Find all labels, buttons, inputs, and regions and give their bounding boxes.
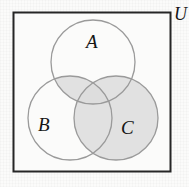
venn-diagram-figure: A B C U bbox=[0, 0, 189, 187]
set-label-b: B bbox=[38, 115, 50, 134]
set-label-c: C bbox=[121, 118, 134, 137]
venn-diagram-canvas bbox=[0, 0, 189, 187]
universe-label-u: U bbox=[174, 5, 187, 23]
set-label-a: A bbox=[86, 32, 98, 51]
